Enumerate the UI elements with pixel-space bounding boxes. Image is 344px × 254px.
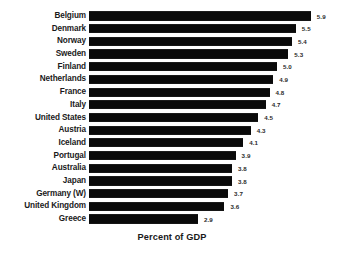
category-label: France	[0, 86, 86, 97]
category-label: Austria	[0, 124, 86, 135]
bar	[89, 24, 296, 33]
bar-track: 2.9	[89, 214, 339, 223]
plot-area: Belgium5.9Denmark5.5Norway5.4Sweden5.3Fi…	[0, 10, 344, 226]
bar-row: Australia3.8	[0, 162, 344, 175]
bar-track: 4.1	[89, 138, 339, 147]
bar-value-label: 4.9	[279, 77, 288, 83]
bar-row: Belgium5.9	[0, 10, 344, 23]
bar-chart: Belgium5.9Denmark5.5Norway5.4Sweden5.3Fi…	[0, 0, 344, 254]
bar-row: Sweden5.3	[0, 48, 344, 61]
category-label: Italy	[0, 99, 86, 110]
bar-value-label: 4.7	[272, 102, 281, 108]
bar	[89, 37, 292, 46]
bar-row: Norway5.4	[0, 35, 344, 48]
bar-value-label: 2.9	[204, 217, 213, 223]
category-label: Denmark	[0, 23, 86, 34]
bar-track: 3.6	[89, 202, 339, 211]
bar-value-label: 4.1	[249, 140, 258, 146]
bar-track: 4.7	[89, 100, 339, 109]
category-label: United Kingdom	[0, 200, 86, 211]
bar-track: 5.0	[89, 62, 339, 71]
bar-value-label: 5.5	[302, 26, 311, 32]
bar-track: 4.9	[89, 75, 339, 84]
bar-track: 5.3	[89, 49, 339, 58]
bar	[89, 176, 232, 185]
category-label: Sweden	[0, 48, 86, 59]
category-label: Finland	[0, 61, 86, 72]
x-axis-title: Percent of GDP	[0, 232, 344, 242]
bar-row: Greece2.9	[0, 213, 344, 226]
bar-track: 4.8	[89, 88, 339, 97]
bar-value-label: 3.7	[234, 191, 243, 197]
bar	[89, 62, 277, 71]
bar-track: 3.8	[89, 164, 339, 173]
bar-value-label: 4.8	[276, 90, 285, 96]
bar-track: 3.9	[89, 151, 339, 160]
bar	[89, 202, 224, 211]
chart-title-cropped	[34, 0, 310, 2]
bar	[89, 138, 243, 147]
bar-row: Austria4.3	[0, 124, 344, 137]
bar-value-label: 3.9	[242, 153, 251, 159]
bar-value-label: 4.3	[257, 128, 266, 134]
bar-row: Denmark5.5	[0, 23, 344, 36]
bar-value-label: 3.6	[230, 204, 239, 210]
bar-track: 5.4	[89, 37, 339, 46]
category-label: Belgium	[0, 10, 86, 21]
bar-row: Netherlands4.9	[0, 73, 344, 86]
bar-value-label: 3.8	[238, 179, 247, 185]
bar-track: 5.9	[89, 11, 339, 20]
category-label: Japan	[0, 175, 86, 186]
category-label: Portugal	[0, 150, 86, 161]
bar-row: United States4.5	[0, 112, 344, 125]
bar-row: Finland5.0	[0, 61, 344, 74]
bar-value-label: 3.8	[238, 166, 247, 172]
bar-row: Germany (W)3.7	[0, 188, 344, 201]
category-label: United States	[0, 112, 86, 123]
category-label: Australia	[0, 162, 86, 173]
bar-row: Italy4.7	[0, 99, 344, 112]
bar-value-label: 5.3	[294, 52, 303, 58]
bar	[89, 11, 311, 20]
bar-track: 4.3	[89, 126, 339, 135]
bar-value-label: 4.5	[264, 115, 273, 121]
bar	[89, 49, 288, 58]
bar-track: 3.8	[89, 176, 339, 185]
bar-row: Iceland4.1	[0, 137, 344, 150]
bar	[89, 126, 251, 135]
category-label: Greece	[0, 213, 86, 224]
bar	[89, 214, 198, 223]
bar	[89, 164, 232, 173]
category-label: Iceland	[0, 137, 86, 148]
bar	[89, 100, 266, 109]
bar-value-label: 5.0	[283, 64, 292, 70]
bar	[89, 189, 228, 198]
bar-track: 5.5	[89, 24, 339, 33]
bar-row: Japan3.8	[0, 175, 344, 188]
bar-value-label: 5.9	[317, 14, 326, 20]
bar	[89, 75, 273, 84]
bar-track: 4.5	[89, 113, 339, 122]
category-label: Netherlands	[0, 73, 86, 84]
bar	[89, 113, 258, 122]
bar-row: France4.8	[0, 86, 344, 99]
category-label: Germany (W)	[0, 188, 86, 199]
category-label: Norway	[0, 35, 86, 46]
bar-value-label: 5.4	[298, 39, 307, 45]
bar	[89, 151, 236, 160]
bar-row: Portugal3.9	[0, 150, 344, 163]
bar-track: 3.7	[89, 189, 339, 198]
bar	[89, 88, 270, 97]
bar-row: United Kingdom3.6	[0, 200, 344, 213]
